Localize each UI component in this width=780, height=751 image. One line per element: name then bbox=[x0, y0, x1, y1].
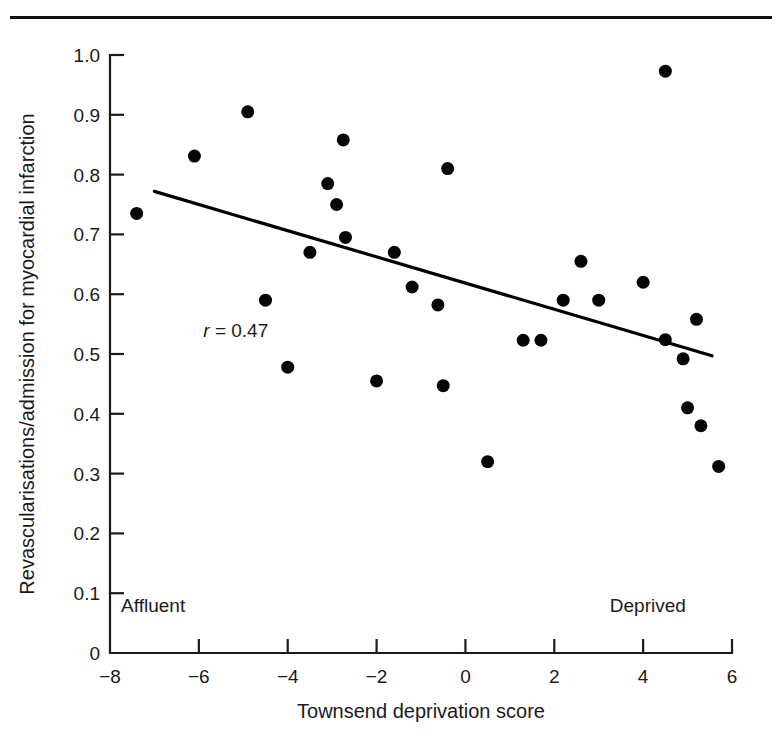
data-point-layer bbox=[130, 65, 725, 473]
x-tick-marks bbox=[199, 639, 732, 653]
data-point bbox=[517, 334, 530, 347]
y-tick-marks bbox=[110, 55, 124, 593]
data-point bbox=[481, 455, 494, 468]
x-tick-label: −6 bbox=[188, 666, 210, 687]
data-point bbox=[321, 177, 334, 190]
data-point bbox=[188, 150, 201, 163]
data-point bbox=[681, 401, 694, 414]
data-point bbox=[694, 419, 707, 432]
y-tick-label: 0.9 bbox=[74, 105, 100, 126]
y-tick-label: 1.0 bbox=[74, 45, 100, 66]
figure-root: 00.10.20.30.40.50.60.70.80.91.0 −8−6−4−2… bbox=[0, 0, 780, 751]
x-axis-group: −8−6−4−20246 bbox=[99, 639, 737, 687]
data-point bbox=[441, 162, 454, 175]
y-tick-label: 0.2 bbox=[74, 523, 100, 544]
x-tick-label: 4 bbox=[638, 666, 649, 687]
data-point bbox=[370, 374, 383, 387]
y-tick-label: 0.6 bbox=[74, 284, 100, 305]
data-point bbox=[337, 133, 350, 146]
y-tick-label: 0.1 bbox=[74, 583, 100, 604]
data-point bbox=[130, 207, 143, 220]
data-point bbox=[437, 379, 450, 392]
data-point bbox=[659, 65, 672, 78]
x-tick-label: −4 bbox=[277, 666, 299, 687]
scatter-plot: 00.10.20.30.40.50.60.70.80.91.0 −8−6−4−2… bbox=[0, 0, 780, 751]
data-point bbox=[431, 298, 444, 311]
deprived-label: Deprived bbox=[610, 595, 686, 616]
y-tick-labels: 00.10.20.30.40.50.60.70.80.91.0 bbox=[74, 45, 101, 664]
correlation-value: = 0.47 bbox=[210, 320, 269, 341]
x-tick-label: −8 bbox=[99, 666, 121, 687]
data-point bbox=[557, 294, 570, 307]
correlation-annotation: r = 0.47 bbox=[203, 320, 268, 341]
data-point bbox=[281, 361, 294, 374]
y-tick-label: 0 bbox=[89, 643, 100, 664]
data-point bbox=[592, 294, 605, 307]
y-axis-title: Revascularisations/admission for myocard… bbox=[16, 113, 38, 594]
data-point bbox=[406, 281, 419, 294]
y-tick-label: 0.8 bbox=[74, 165, 100, 186]
y-axis-group: 00.10.20.30.40.50.60.70.80.91.0 bbox=[74, 45, 124, 664]
affluent-label: Affluent bbox=[121, 595, 186, 616]
data-point bbox=[339, 231, 352, 244]
y-tick-label: 0.5 bbox=[74, 344, 100, 365]
data-point bbox=[637, 276, 650, 289]
data-point bbox=[712, 460, 725, 473]
y-tick-label: 0.4 bbox=[74, 404, 101, 425]
data-point bbox=[574, 255, 587, 268]
data-point bbox=[259, 294, 272, 307]
x-tick-label: 2 bbox=[549, 666, 560, 687]
y-tick-label: 0.3 bbox=[74, 464, 100, 485]
x-tick-label: 6 bbox=[727, 666, 738, 687]
x-tick-labels: −8−6−4−20246 bbox=[99, 666, 737, 687]
x-axis-title: Townsend deprivation score bbox=[297, 700, 545, 722]
x-tick-label: −2 bbox=[366, 666, 388, 687]
y-tick-label: 0.7 bbox=[74, 224, 100, 245]
data-point bbox=[534, 334, 547, 347]
data-point bbox=[241, 105, 254, 118]
data-point bbox=[330, 198, 343, 211]
x-tick-label: 0 bbox=[460, 666, 471, 687]
data-point bbox=[388, 246, 401, 259]
data-point bbox=[690, 313, 703, 326]
data-point bbox=[303, 246, 316, 259]
data-point bbox=[677, 352, 690, 365]
